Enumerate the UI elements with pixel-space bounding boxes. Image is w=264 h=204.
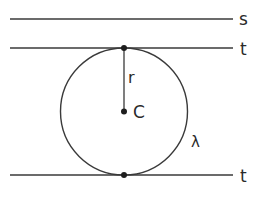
line-s-label: s bbox=[239, 9, 248, 29]
tangent-point-top bbox=[121, 45, 127, 51]
tangent-point-bottom bbox=[121, 172, 127, 178]
radius-label: r bbox=[128, 68, 135, 87]
line-t-bottom-label: t bbox=[240, 166, 247, 186]
circle-lambda-label: λ bbox=[191, 133, 200, 151]
center-label: C bbox=[133, 102, 145, 122]
center-point-c bbox=[121, 109, 127, 115]
line-t-top-label: t bbox=[240, 39, 247, 59]
geometry-diagram: s t λ r C t bbox=[0, 0, 264, 204]
